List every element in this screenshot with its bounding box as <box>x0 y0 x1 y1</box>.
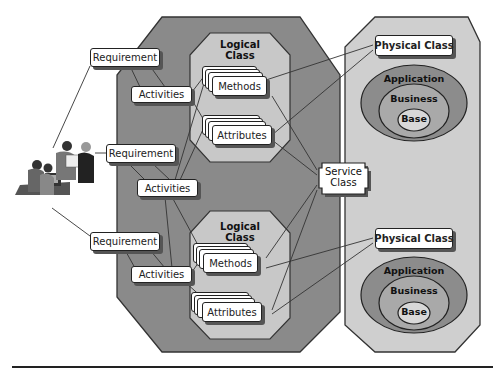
logical-class-title-bottom: Logical Class <box>215 221 265 243</box>
methods-box-bottom: Methods <box>203 253 258 273</box>
application-label-top: Application <box>374 73 454 84</box>
physical-class-box-bottom: Physical Class <box>375 228 453 249</box>
attributes-box-top: Attributes <box>212 125 272 145</box>
logical-class-title-line2: Class <box>215 50 265 61</box>
service-class-line2: Class <box>319 177 368 188</box>
bottom-rule <box>12 366 493 368</box>
business-label-top: Business <box>374 93 454 104</box>
physical-class-box-top: Physical Class <box>375 35 453 56</box>
logical-class-title-line1: Logical <box>215 221 265 232</box>
activities-box-2: Activities <box>137 179 198 197</box>
attributes-box-bottom: Attributes <box>202 302 262 322</box>
base-label-top: Base <box>374 113 454 124</box>
business-label-bottom: Business <box>374 285 454 296</box>
requirement-box-1: Requirement <box>90 48 160 67</box>
team-of-people-icon <box>15 141 94 195</box>
requirement-box-2: Requirement <box>106 144 176 163</box>
activities-box-1: Activities <box>131 86 192 103</box>
methods-box-top: Methods <box>212 76 267 96</box>
requirement-box-3: Requirement <box>90 232 160 251</box>
service-class-label: Service Class <box>319 166 368 188</box>
activities-box-3: Activities <box>131 266 192 283</box>
application-label-bottom: Application <box>374 265 454 276</box>
base-label-bottom: Base <box>374 306 454 317</box>
logical-class-title-line1: Logical <box>215 39 265 50</box>
service-class-line1: Service <box>319 166 368 177</box>
logical-class-title-top: Logical Class <box>215 39 265 61</box>
logical-class-title-line2: Class <box>215 232 265 243</box>
